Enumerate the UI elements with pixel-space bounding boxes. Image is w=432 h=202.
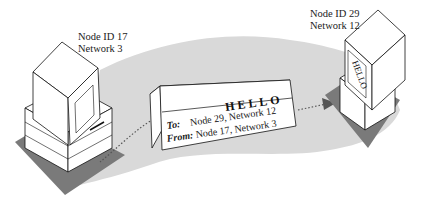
sender-label: Node ID 17 Network 3 — [78, 31, 128, 55]
receiver-label: Node ID 29 Network 12 — [310, 8, 360, 32]
network-message-diagram: HELLO Node ID 17 Network 3 Node ID 29 Ne… — [0, 0, 432, 202]
sender-network: Network 3 — [78, 43, 128, 55]
receiver-network: Network 12 — [310, 20, 360, 32]
receiver-node-id: Node ID 29 — [310, 8, 360, 20]
diagram-graphics: HELLO — [0, 0, 432, 202]
packet-to-label: To: — [166, 118, 181, 131]
sender-node-id: Node ID 17 — [78, 31, 128, 43]
